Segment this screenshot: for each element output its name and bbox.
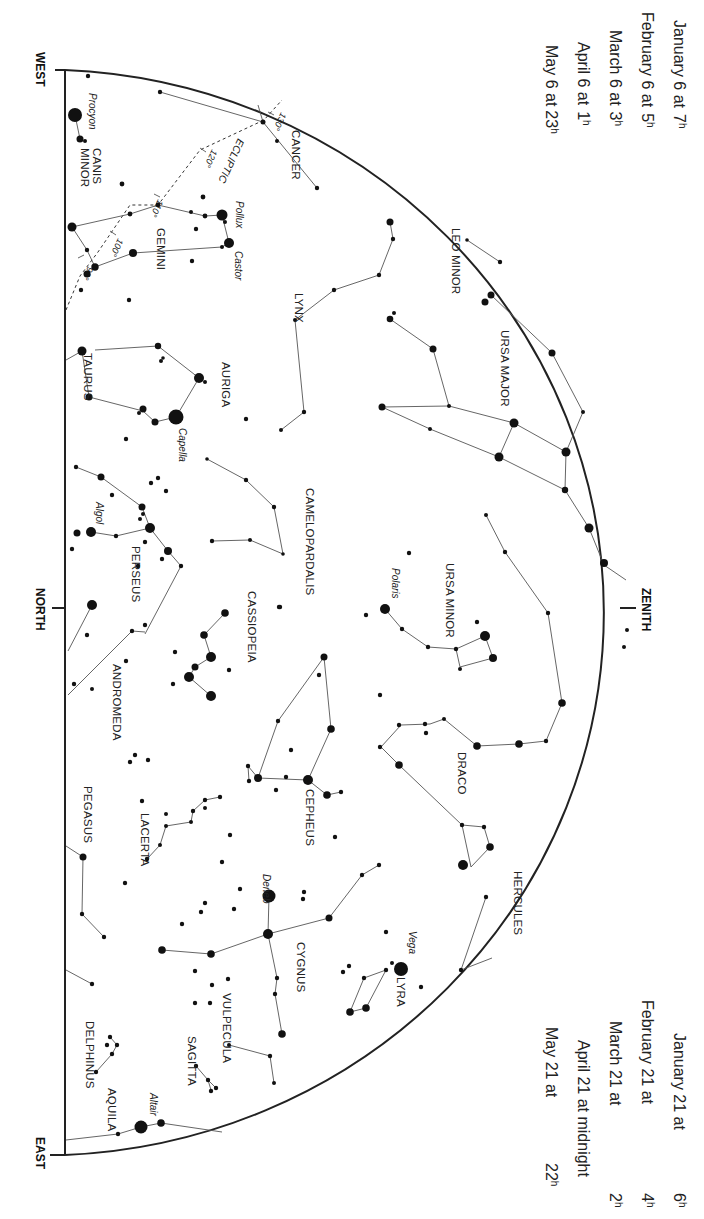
ecliptic: 90° 100° 110° 120° 130° ECLIPTIC [66,100,288,310]
star-vega [394,962,408,976]
star-capella [169,410,184,425]
label-vega: Vega [407,931,418,954]
label-ursa-minor: URSA MINOR [444,563,456,638]
west-label: WEST [33,52,47,87]
constellation-labels: CANIS MINOR CANCER GEMINI LEO MINOR LYNX… [79,130,524,1132]
label-taurus: TAURUS [82,353,94,401]
time-table-bottom: January 21 at6h February 21 at4h March 2… [543,1000,688,1207]
label-lacerta: LACERTA [139,813,151,867]
label-delphinus: DELPHINUS [84,1021,96,1089]
label-hercules: HERCULES [512,871,524,935]
label-ursa-major: URSA MAJOR [499,330,511,407]
label-altair: Altair [148,1092,159,1116]
label-procyon: Procyon [87,93,98,130]
time-row-bottom-1: February 21 at4h [639,1000,656,1207]
star-altair [135,1121,148,1134]
star-polaris [380,604,390,614]
time-row-bottom-0: January 21 at6h [671,1033,688,1207]
stars [68,74,630,1136]
label-perseus: PERSEUS [130,546,142,602]
label-cancer: CANCER [290,130,302,180]
label-cassiopeia: CASSIOPEIA [246,591,258,663]
star-pollux [217,210,228,221]
label-gemini: GEMINI [155,228,167,270]
star-procyon [68,108,82,122]
label-camelopardalis: CAMELOPARDALIS [304,488,316,596]
ecliptic-tick-110: 110° [148,198,165,219]
label-canis-minor-2: MINOR [79,148,91,187]
north-label: NORTH [33,588,47,631]
ecliptic-tick-100: 100° [108,237,125,258]
label-vulpecula: VULPECULA [221,993,233,1063]
label-lyra: LYRA [395,977,407,1007]
label-andromeda: ANDROMEDA [111,664,123,741]
label-aquila: AQUILA [106,1088,118,1132]
time-table-top: January 6 at7h February 6 at5h March 6 a… [543,12,688,134]
time-row-bottom-2: March 21 at2h [607,1021,624,1207]
label-canis-minor-1: CANIS [91,148,103,184]
star-castor [224,238,234,248]
time-row-top-1: February 6 at5h [639,12,656,128]
label-auriga: AURIGA [220,362,232,407]
label-draco: DRACO [456,752,468,795]
constellation-lines [66,92,626,1140]
label-castor: Castor [233,251,244,281]
label-lynx: LYNX [293,293,305,323]
label-leo-minor: LEO MINOR [450,228,462,294]
label-sagitta: SAGITTA [186,1036,198,1086]
time-row-bottom-4: May 21 at22h [543,1027,560,1186]
time-row-bottom-3: April 21 at midnight [575,1040,592,1178]
star-chart: WEST NORTH EAST ZENITH 90° 100° 110° 120… [0,0,704,1219]
time-row-top-0: January 6 at7h [671,20,688,129]
east-label: EAST [33,1137,47,1170]
ecliptic-label: ECLIPTIC [216,137,247,185]
label-polaris: Polaris [390,568,401,599]
star-algol [86,527,96,537]
label-pegasus: PEGASUS [82,786,94,843]
time-row-top-4: May 6 at23h [543,45,560,134]
time-row-top-3: April 6 at1h [575,42,592,126]
label-pollux: Pollux [234,201,245,229]
time-row-top-2: March 6 at3h [607,30,624,126]
label-capella: Capella [177,428,188,462]
label-cygnus: CYGNUS [295,942,307,993]
label-deneb: Deneb [261,874,272,904]
zenith-label: ZENITH [639,588,653,631]
dome-arc [65,70,604,1155]
label-cepheus: CEPHEUS [304,789,316,846]
label-algol: Algol [94,501,105,525]
